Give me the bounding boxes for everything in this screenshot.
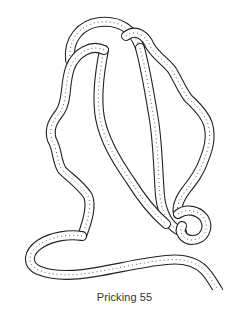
figure-caption: Pricking 55	[0, 290, 249, 304]
band-loop	[178, 211, 206, 240]
pricking-illustration	[0, 0, 249, 290]
